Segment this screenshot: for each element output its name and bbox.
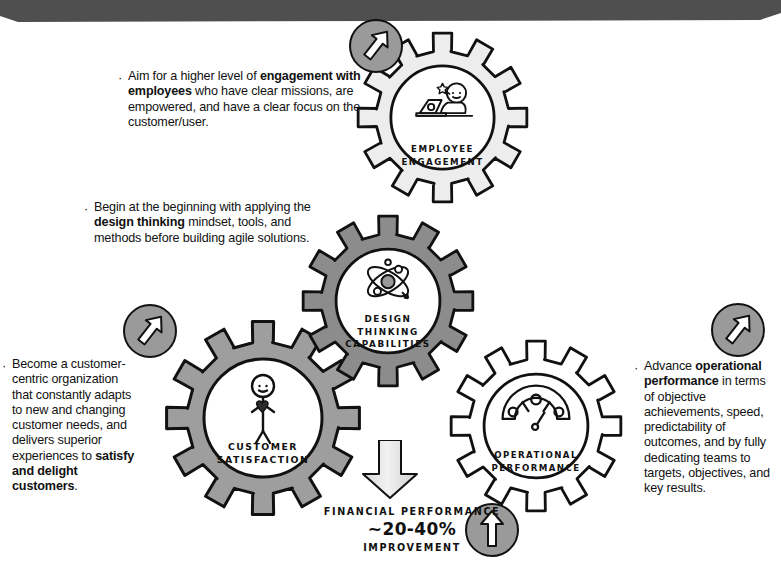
bullet-marker: · (2, 358, 6, 373)
bullet-marker: · (634, 360, 638, 375)
callout-operational-performance-text: Advance operational performance in terms… (634, 359, 774, 497)
financial-subtitle: IMPROVEMENT (312, 541, 512, 554)
callout-employee-engagement-text: Aim for a higher level of engagement wit… (118, 69, 370, 130)
callout-design-thinking-text: Begin at the beginning with applying the… (84, 200, 332, 246)
callout-design-thinking: · Begin at the beginning with applying t… (84, 200, 332, 246)
callout-employee-engagement: · Aim for a higher level of engagement w… (118, 69, 370, 130)
callout-operational-performance: · Advance operational performance in ter… (634, 359, 774, 497)
gear-inner-circle (391, 66, 494, 169)
financial-title: FINANCIAL PERFORMANCE (312, 505, 512, 518)
down-arrow (357, 440, 423, 504)
callout-customer-satisfaction: · Become a customer-centric organization… (2, 357, 135, 495)
badge-top[interactable] (348, 18, 404, 74)
badge-left[interactable] (122, 303, 178, 359)
callout-customer-satisfaction-text: Become a customer-centric organization t… (2, 357, 135, 495)
badge-right[interactable] (710, 302, 766, 358)
arrow-down-icon (363, 440, 417, 498)
financial-performance-caption: FINANCIAL PERFORMANCE ~20-40% IMPROVEMEN… (312, 505, 512, 554)
gear-design-thinking[interactable]: DESIGN THINKING CAPABILITIES (300, 213, 476, 389)
bullet-marker: · (118, 70, 122, 85)
bullet-marker: · (84, 201, 88, 216)
infographic-canvas: · Aim for a higher level of engagement w… (0, 0, 781, 573)
financial-value: ~20-40% (312, 519, 512, 540)
